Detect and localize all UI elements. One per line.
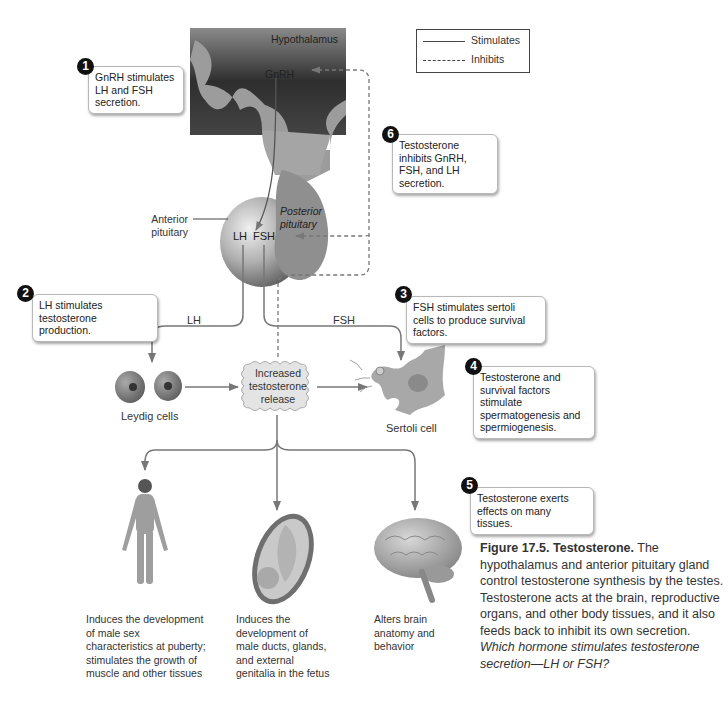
step-3-callout: FSH stimulates sertoli cells to produce … <box>406 296 546 344</box>
step-3-text: FSH stimulates sertoli cells to produce … <box>413 301 525 338</box>
anterior-line2: pituitary <box>136 226 188 239</box>
step-6-callout: Testosterone inhibits GnRH, FSH, and LH … <box>392 134 498 194</box>
dashed-line-icon <box>423 60 465 61</box>
step-2-callout: LH stimulates testosterone production. <box>32 294 158 342</box>
figure-title: Testosterone. <box>553 541 634 555</box>
gnrh-label: GnRH <box>265 68 294 81</box>
posterior-line2: pituitary <box>280 218 322 231</box>
step-5-callout: Testosterone exerts effects on many tiss… <box>470 487 594 535</box>
sertoli-cell-illustration <box>350 345 445 415</box>
anterior-line1: Anterior <box>136 213 188 226</box>
release-line2: testosterone <box>245 380 311 393</box>
legend-inhibits-label: Inhibits <box>471 53 504 65</box>
step-1-badge: 1 <box>77 58 94 75</box>
effect-fetus-text: Induces the development of male ducts, g… <box>236 613 332 681</box>
legend-inhibits: Inhibits <box>423 53 504 65</box>
anterior-pituitary-label: Anterior pituitary <box>136 213 188 239</box>
hypothalamus-illustration <box>190 28 346 185</box>
lh-arrow-label: LH <box>187 314 201 327</box>
legend-stimulates-label: Stimulates <box>471 34 520 46</box>
lh-pituitary-label: LH <box>233 230 247 243</box>
legend: Stimulates Inhibits <box>416 29 530 73</box>
fsh-pituitary-label: FSH <box>253 230 275 243</box>
effect-body-text: Induces the development of male sex char… <box>86 613 208 681</box>
legend-stimulates: Stimulates <box>423 34 520 46</box>
posterior-pituitary-label: Posterior pituitary <box>280 205 322 231</box>
hypothalamus-label: Hypothalamus <box>271 33 338 46</box>
figure-label: Figure 17.5. <box>480 541 549 555</box>
step-2-badge: 2 <box>17 285 34 302</box>
step-5-text: Testosterone exerts effects on many tiss… <box>477 492 569 529</box>
effect-brain-text: Alters brain anatomy and behavior <box>374 613 470 654</box>
leydig-cells-illustration <box>115 371 182 403</box>
figure-question: Which hormone stimulates testosterone se… <box>480 640 700 671</box>
step-1-text: GnRH stimulates LH and FSH secretion. <box>95 71 174 108</box>
step-6-badge: 6 <box>382 126 399 143</box>
brain-illustration <box>374 518 462 600</box>
posterior-line1: Posterior <box>280 205 322 218</box>
step-3-badge: 3 <box>395 286 412 303</box>
solid-line-icon <box>423 41 465 42</box>
fsh-arrow-label: FSH <box>333 314 355 327</box>
fetus-illustration <box>241 505 326 612</box>
figure-body: The hypothalamus and anterior pituitary … <box>480 541 723 638</box>
male-body-illustration <box>122 479 168 584</box>
step-2-text: LH stimulates testosterone production. <box>39 299 103 336</box>
release-line3: release <box>245 393 311 406</box>
step-5-badge: 5 <box>461 477 478 494</box>
step-6-text: Testosterone inhibits GnRH, FSH, and LH … <box>399 139 467 189</box>
leydig-cells-label: Leydig cells <box>121 410 178 423</box>
sertoli-cell-label: Sertoli cell <box>386 422 437 435</box>
step-4-text: Testosterone and survival factors stimul… <box>480 371 580 433</box>
figure-caption: Figure 17.5. Testosterone. The hypothala… <box>480 540 728 672</box>
step-1-callout: GnRH stimulates LH and FSH secretion. <box>88 66 184 114</box>
step-4-badge: 4 <box>465 358 482 375</box>
release-label: Increased testosterone release <box>245 367 311 406</box>
release-line1: Increased <box>245 367 311 380</box>
step-4-callout: Testosterone and survival factors stimul… <box>473 366 595 439</box>
